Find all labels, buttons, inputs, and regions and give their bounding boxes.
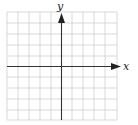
x-axis-label: x: [123, 60, 130, 73]
coordinate-plane: x y: [0, 0, 138, 125]
y-axis-label: y: [56, 0, 64, 13]
y-axis-arrow-icon: [58, 13, 65, 23]
x-axis: [7, 63, 121, 70]
x-axis-arrow-icon: [111, 63, 121, 70]
